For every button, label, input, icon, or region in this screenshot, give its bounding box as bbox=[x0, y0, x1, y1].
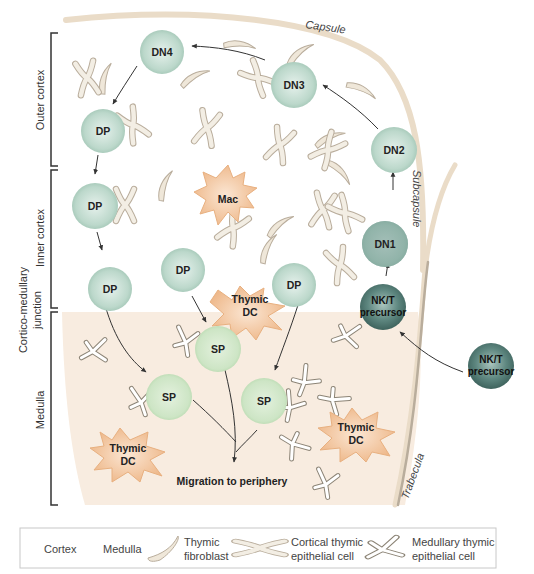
medulla-label: Medulla bbox=[34, 390, 46, 429]
cell-dn2: DN2 bbox=[371, 127, 417, 173]
dp-junction-mid-label: DP bbox=[176, 264, 191, 276]
subcapsule-label: Subcapsule bbox=[411, 170, 423, 228]
cmj-label-line1: Cortico-medullary bbox=[17, 266, 29, 353]
cell-sp-left: SP bbox=[146, 374, 192, 420]
legend-cortical-1: Cortical thymic bbox=[291, 536, 364, 548]
dp-outer-label: DP bbox=[96, 125, 111, 137]
outer-cortex-label: Outer cortex bbox=[34, 69, 46, 130]
dn4-label: DN4 bbox=[151, 46, 172, 58]
legend-medullary-1: Medullary thymic bbox=[412, 536, 495, 548]
cmj-label-line2: junction bbox=[31, 291, 43, 330]
thymic-dc-junction-label-2: DC bbox=[242, 306, 258, 318]
dp-junction-left-label: DP bbox=[103, 283, 118, 295]
cell-sp-top: SP bbox=[195, 326, 241, 372]
cell-nkt-precursor-outside: NK/T precursor bbox=[468, 343, 515, 389]
cell-dp-inner: DP bbox=[72, 183, 118, 229]
thymic-dc-left-label-2: DC bbox=[120, 455, 136, 467]
legend-fibroblast-1: Thymic bbox=[184, 536, 220, 548]
legend-cortical-2: epithelial cell bbox=[291, 550, 354, 562]
cell-dp-junction-left: DP bbox=[88, 267, 132, 311]
cortical-epithelial-cells bbox=[75, 60, 362, 283]
cell-dp-outer: DP bbox=[81, 109, 125, 153]
sp-top-label: SP bbox=[211, 343, 225, 355]
legend-medulla: Medulla bbox=[103, 543, 142, 555]
inner-cortex-label: Inner cortex bbox=[34, 208, 46, 267]
legend-cortex: Cortex bbox=[44, 543, 77, 555]
nkt-inside-label-1: NK/T bbox=[371, 295, 394, 306]
thymic-dc-right-label-1: Thymic bbox=[338, 421, 375, 433]
nkt-outside-label-2: precursor bbox=[468, 366, 515, 377]
sp-left-label: SP bbox=[162, 391, 176, 403]
mac-label: Mac bbox=[218, 193, 239, 205]
dn1-label: DN1 bbox=[374, 238, 395, 250]
cell-dn4: DN4 bbox=[140, 30, 184, 74]
thymic-dc-junction-label-1: Thymic bbox=[232, 293, 269, 305]
legend: Cortex Medulla Thymic fibroblast Cortica… bbox=[20, 528, 496, 568]
dp-junction-right-label: DP bbox=[287, 279, 302, 291]
nkt-inside-label-2: precursor bbox=[360, 307, 407, 318]
thymic-dc-left-label-1: Thymic bbox=[110, 442, 147, 454]
dp-inner-label: DP bbox=[88, 200, 103, 212]
thymic-dc-right-label-2: DC bbox=[348, 434, 364, 446]
legend-medullary-2: epithelial cell bbox=[412, 550, 475, 562]
dn2-label: DN2 bbox=[383, 144, 404, 156]
cell-dn1: DN1 bbox=[362, 221, 408, 267]
sp-right-label: SP bbox=[257, 395, 271, 407]
zone-brackets bbox=[51, 33, 58, 505]
nkt-outside-label-1: NK/T bbox=[479, 354, 502, 365]
thymus-diagram: Capsule Subcapsule Trabecula Outer corte… bbox=[0, 0, 534, 574]
legend-fibroblast-2: fibroblast bbox=[184, 550, 229, 562]
cell-dn3: DN3 bbox=[271, 62, 317, 108]
cell-dp-junction-mid: DP bbox=[161, 248, 205, 292]
cell-sp-right: SP bbox=[241, 378, 287, 424]
cell-dp-junction-right: DP bbox=[272, 263, 316, 307]
dn3-label: DN3 bbox=[283, 79, 304, 91]
migration-label: Migration to periphery bbox=[177, 475, 288, 487]
